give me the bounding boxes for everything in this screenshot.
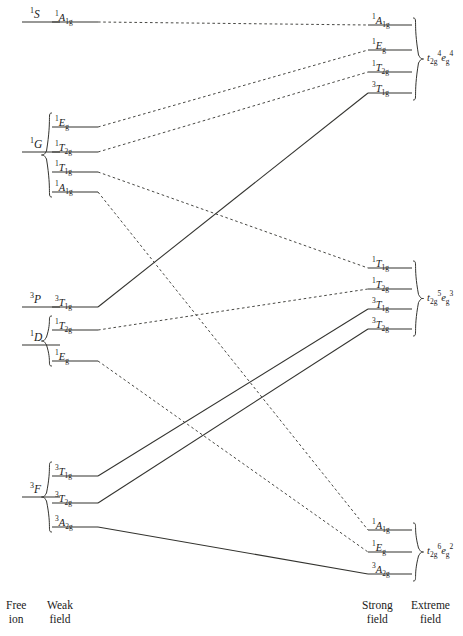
weak-field-state-label: 1T1g: [55, 159, 72, 176]
correlation-line-w4-to-s5: [98, 172, 368, 268]
correlation-line-w2-to-s2: [98, 50, 368, 127]
correlation-line-w8-to-s10: [98, 361, 368, 552]
correlation-line-w10-to-s8: [98, 329, 368, 503]
strong-field-state-label: 1A1g: [372, 517, 390, 534]
strong-field-state-label: 1Eg: [372, 539, 386, 556]
weak-field-multiplet-brace: [42, 113, 53, 197]
strong-field-state-label: 3T1g: [372, 80, 389, 97]
correlation-line-w9-to-s7: [98, 309, 368, 476]
correlation-line-w7-to-s6: [98, 289, 368, 330]
strong-field-state-label: 1Eg: [372, 37, 386, 54]
weak-field-state-label: 3T1g: [55, 463, 72, 480]
correlation-line-w3-to-s3: [98, 72, 368, 152]
correlation-line-w5-to-s9: [98, 192, 368, 530]
weak-field-state-label: 1Eg: [55, 114, 69, 131]
free-ion-term-lines: [22, 22, 60, 497]
strong-field-state-label: 3T2g: [372, 316, 389, 333]
strong-field-state-label: 1T2g: [372, 276, 389, 293]
weak-field-state-label: 1A1g: [55, 179, 73, 196]
configuration-brace: [413, 261, 424, 336]
weak-field-multiplet-brace: [42, 316, 53, 366]
strong-field-state-label: 3T1g: [372, 296, 389, 313]
correlation-line-w1-to-s1: [98, 22, 368, 25]
free-ion-term-label: 1G: [30, 136, 42, 150]
free-ion-term-label: 3F: [30, 481, 41, 495]
free-ion-term-label: 3P: [30, 291, 41, 305]
bracket-braces: [42, 18, 424, 581]
weak-field-state-label: 3T2g: [55, 490, 72, 507]
axis-label-extreme-field: Extremefield: [411, 598, 450, 626]
free-ion-term-label: 1D: [30, 329, 42, 343]
weak-field-state-label: 1Eg: [55, 348, 69, 365]
strong-field-state-label: 1T2g: [372, 59, 389, 76]
weak-field-state-label: 1T2g: [55, 139, 72, 156]
configuration-brace: [413, 523, 424, 581]
configuration-label: t2g5eg3: [427, 289, 453, 306]
strong-field-state-label: 1T1g: [372, 255, 389, 272]
axis-label-weak-field: Weakfield: [47, 598, 73, 626]
axis-label-strong-field: Strongfield: [362, 598, 393, 626]
weak-field-state-label: 1A1g: [55, 9, 73, 26]
configuration-label: t2g4eg4: [427, 49, 453, 66]
strong-field-state-label: 3A2g: [372, 561, 390, 578]
configuration-brace: [413, 18, 424, 100]
weak-field-state-label: 3A2g: [55, 514, 73, 531]
configuration-label: t2g6eg2: [427, 542, 453, 559]
strong-field-state-label: 1A1g: [372, 12, 390, 29]
free-ion-term-label: 1S: [30, 6, 40, 20]
weak-field-level-lines: [52, 22, 98, 527]
correlation-line-w11-to-s11: [98, 527, 368, 574]
weak-field-state-label: 1T2g: [55, 317, 72, 334]
correlation-line-w6-to-s4: [98, 93, 368, 307]
weak-field-state-label: 3T1g: [55, 294, 72, 311]
correlation-lines: [98, 22, 368, 574]
axis-label-free-ion: Freeion: [6, 598, 26, 626]
